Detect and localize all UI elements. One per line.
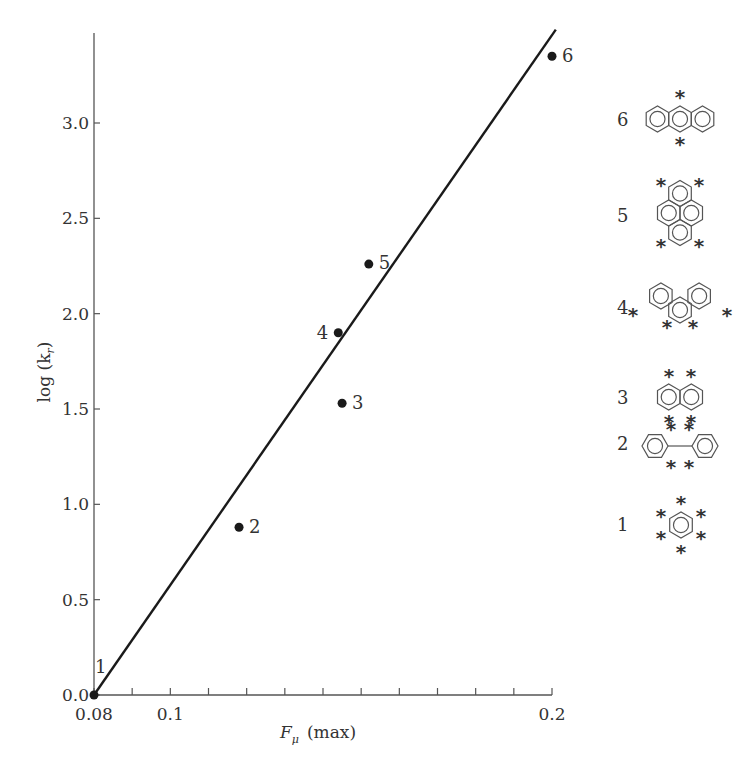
star-icon: * xyxy=(656,234,667,258)
star-icon: * xyxy=(656,173,667,197)
regression-line xyxy=(94,30,556,695)
molecule-label-3: 3 xyxy=(617,387,628,408)
star-icon: * xyxy=(686,364,697,388)
aromatic-circle xyxy=(684,389,699,404)
point-label-4: 4 xyxy=(317,322,328,343)
star-icon: * xyxy=(694,173,705,197)
point-label-1: 1 xyxy=(95,656,106,677)
chart-canvas: 0.080.10.20.00.51.01.52.02.53.0 123456 F… xyxy=(0,0,751,772)
aromatic-circle xyxy=(661,205,676,220)
y-tick-label: 1.5 xyxy=(62,399,89,419)
molecule-5-pyrene-icon: 5**** xyxy=(617,173,705,258)
data-point-3 xyxy=(338,399,347,408)
star-icon: * xyxy=(666,417,677,441)
aromatic-circle xyxy=(672,302,687,317)
fit-line xyxy=(94,30,556,695)
star-icon: * xyxy=(656,526,667,550)
point-label-6: 6 xyxy=(562,45,573,66)
x-axis-label: Fμ(max) xyxy=(279,722,356,746)
aromatic-circle xyxy=(697,438,712,453)
aromatic-circle xyxy=(661,389,676,404)
molecule-label-5: 5 xyxy=(617,205,628,226)
data-point-4 xyxy=(334,328,343,337)
star-icon: * xyxy=(664,364,675,388)
data-point-1 xyxy=(90,691,99,700)
star-icon: * xyxy=(694,234,705,258)
data-points: 123456 xyxy=(90,45,574,699)
star-icon: * xyxy=(696,504,707,528)
aromatic-circle xyxy=(650,111,665,126)
star-icon: * xyxy=(628,303,639,327)
y-tick-label: 2.5 xyxy=(62,208,89,228)
molecule-label-4: 4 xyxy=(617,297,628,318)
molecule-label-6: 6 xyxy=(617,109,628,130)
point-label-5: 5 xyxy=(379,252,390,273)
y-tick-label: 2.0 xyxy=(62,304,89,324)
y-tick-label: 0.0 xyxy=(62,685,89,705)
star-icon: * xyxy=(656,504,667,528)
molecule-4-phenanthrene-icon: 4**** xyxy=(617,283,733,339)
x-tick-label: 0.1 xyxy=(157,704,184,724)
aromatic-circle xyxy=(684,205,699,220)
star-icon: * xyxy=(696,526,707,550)
molecule-6-anthracene-icon: 6** xyxy=(617,85,714,156)
star-icon: * xyxy=(662,315,673,339)
aromatic-circle xyxy=(672,186,687,201)
aromatic-circle xyxy=(673,517,688,532)
y-tick-label: 0.5 xyxy=(62,590,89,610)
star-icon: * xyxy=(684,417,695,441)
y-tick-label: 1.0 xyxy=(62,494,89,514)
x-tick-label: 0.2 xyxy=(538,704,565,724)
star-icon: * xyxy=(666,455,677,479)
data-point-6 xyxy=(548,52,557,61)
molecule-2-biphenyl-icon: 2**** xyxy=(617,417,718,479)
aromatic-circle xyxy=(695,111,710,126)
data-point-5 xyxy=(364,260,373,269)
molecule-1-benzene-icon: 1****** xyxy=(617,491,707,564)
star-icon: * xyxy=(688,315,699,339)
star-icon: * xyxy=(675,85,686,109)
point-label-2: 2 xyxy=(249,516,260,537)
aromatic-circle xyxy=(647,438,662,453)
aromatic-circle xyxy=(672,225,687,240)
y-tick-label: 3.0 xyxy=(62,113,89,133)
aromatic-circle xyxy=(692,288,707,303)
x-tick-label: 0.08 xyxy=(75,704,113,724)
star-icon: * xyxy=(676,540,687,564)
y-axis-label: log (kr) xyxy=(34,342,57,403)
aromatic-circle xyxy=(672,111,687,126)
molecule-legend: 6**5****4****3****2****1****** xyxy=(617,85,733,564)
molecule-label-2: 2 xyxy=(617,433,628,454)
star-icon: * xyxy=(684,455,695,479)
aromatic-circle xyxy=(653,288,668,303)
star-icon: * xyxy=(675,132,686,156)
data-point-2 xyxy=(235,523,244,532)
point-label-3: 3 xyxy=(352,392,363,413)
star-icon: * xyxy=(676,491,687,515)
molecule-label-1: 1 xyxy=(617,514,628,535)
star-icon: * xyxy=(722,303,733,327)
